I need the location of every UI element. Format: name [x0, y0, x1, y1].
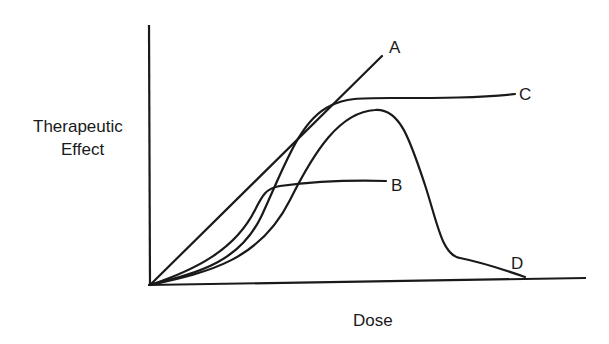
x-axis-label: Dose [353, 311, 393, 330]
curve-a-label: A [389, 38, 401, 57]
curve-d [150, 110, 525, 285]
dose-response-chart: A C B D Therapeutic Effect Dose [0, 0, 609, 344]
curve-a [150, 56, 382, 285]
curve-c [150, 94, 515, 285]
y-axis-label-line1: Therapeutic [33, 117, 123, 136]
x-axis [148, 278, 586, 285]
y-axis-label-line2: Effect [61, 140, 104, 159]
y-axis [149, 25, 150, 286]
curve-b-label: B [391, 176, 402, 195]
curve-c-label: C [519, 85, 531, 104]
curve-d-label: D [511, 254, 523, 273]
